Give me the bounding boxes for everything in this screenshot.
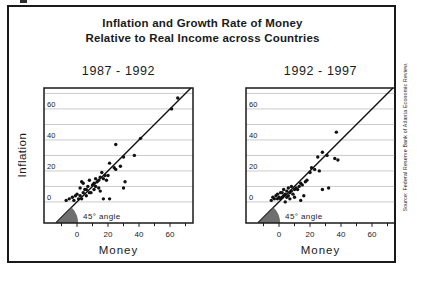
data-point: [80, 197, 83, 200]
data-point: [102, 197, 105, 200]
x-tick-label: 0: [277, 230, 282, 239]
x-tick-label: 0: [75, 230, 80, 239]
data-point: [97, 179, 100, 182]
data-point: [308, 171, 311, 174]
x-axis-label-money-right: Money: [246, 244, 395, 256]
data-point: [99, 189, 102, 192]
data-point: [78, 186, 81, 189]
data-point: [305, 179, 308, 182]
data-point: [72, 199, 75, 202]
data-point: [89, 191, 92, 194]
angle-wedge: [258, 207, 280, 223]
data-point: [291, 192, 294, 195]
data-point: [114, 168, 117, 171]
data-point: [97, 186, 100, 189]
panel-title-1987-1992: 1987 - 1992: [44, 64, 193, 78]
y-tick-label: 40: [249, 131, 257, 140]
data-point: [92, 188, 95, 191]
data-point: [94, 177, 97, 180]
y-tick-label: 20: [47, 162, 55, 171]
data-point: [276, 192, 279, 195]
cropped-text-fragment: [20, 0, 27, 3]
data-point: [139, 137, 142, 140]
data-point: [86, 185, 89, 188]
data-point: [119, 165, 122, 168]
figure-title: Inflation and Growth Rate of Money Relat…: [7, 16, 398, 46]
panel-title-1992-1997: 1992 - 1997: [246, 64, 395, 78]
data-point: [284, 192, 287, 195]
data-point: [122, 155, 125, 158]
y-tick-label: 60: [47, 100, 55, 109]
data-point: [92, 182, 95, 185]
data-point: [287, 186, 290, 189]
angle-annotation: 45° angle: [83, 212, 121, 221]
data-point: [335, 130, 338, 133]
y-tick-label: 0: [249, 193, 253, 202]
data-point: [78, 194, 81, 197]
x-tick-label: 20: [306, 230, 315, 239]
data-point: [75, 192, 78, 195]
data-point: [310, 166, 313, 169]
data-point: [94, 185, 97, 188]
data-point: [108, 197, 111, 200]
data-point: [290, 185, 293, 188]
data-point: [336, 158, 339, 161]
data-point: [270, 199, 273, 202]
data-point: [325, 154, 328, 157]
x-tick-label: 60: [368, 230, 377, 239]
figure-title-line2: Relative to Real Income across Countries: [7, 31, 398, 46]
data-point: [318, 169, 321, 172]
data-point: [293, 196, 296, 199]
data-point: [170, 107, 173, 110]
data-point: [102, 177, 105, 180]
data-point: [273, 197, 276, 200]
x-tick-label: 40: [337, 230, 346, 239]
data-point: [88, 179, 91, 182]
data-point: [133, 154, 136, 157]
x-tick-label: 20: [104, 230, 113, 239]
data-point: [176, 96, 179, 99]
data-point: [68, 197, 71, 200]
data-point: [85, 194, 88, 197]
y-axis-label-inflation: Inflation: [16, 100, 32, 210]
data-point: [85, 188, 88, 191]
data-point: [313, 168, 316, 171]
scatter-plot-1987-1992: 45° angle02040600204060: [44, 88, 193, 240]
data-point: [103, 174, 106, 177]
data-point: [108, 161, 111, 164]
y-tick-label: 20: [249, 162, 257, 171]
data-point: [100, 171, 103, 174]
y-tick-label: 40: [47, 131, 55, 140]
data-point: [105, 179, 108, 182]
data-point: [82, 191, 85, 194]
x-tick-label: 60: [166, 230, 175, 239]
data-point: [123, 180, 126, 183]
data-point: [99, 175, 102, 178]
data-point: [301, 183, 304, 186]
x-tick-label: 40: [135, 230, 144, 239]
data-point: [333, 157, 336, 160]
y-tick-label: 0: [47, 193, 51, 202]
data-point: [280, 191, 283, 194]
figure-canvas: Inflation and Growth Rate of Money Relat…: [0, 0, 421, 282]
data-point: [287, 194, 290, 197]
x-axis-label-money-left: Money: [44, 244, 193, 256]
data-point: [321, 188, 324, 191]
scatter-plot-1992-1997: 45° angle02040600204060: [246, 88, 395, 240]
data-point: [288, 197, 291, 200]
data-point: [302, 194, 305, 197]
figure-title-line1: Inflation and Growth Rate of Money: [7, 16, 398, 31]
data-point: [106, 174, 109, 177]
data-point: [282, 188, 285, 191]
data-point: [316, 155, 319, 158]
data-point: [82, 182, 85, 185]
angle-wedge: [56, 207, 78, 223]
data-point: [321, 151, 324, 154]
data-point: [122, 186, 125, 189]
data-point: [64, 199, 67, 202]
data-point: [327, 186, 330, 189]
source-attribution: Source: Federal Reserve Bank of Atlanta …: [402, 56, 412, 218]
data-point: [77, 197, 80, 200]
data-point: [114, 143, 117, 146]
y-tick-label: 60: [249, 100, 257, 109]
